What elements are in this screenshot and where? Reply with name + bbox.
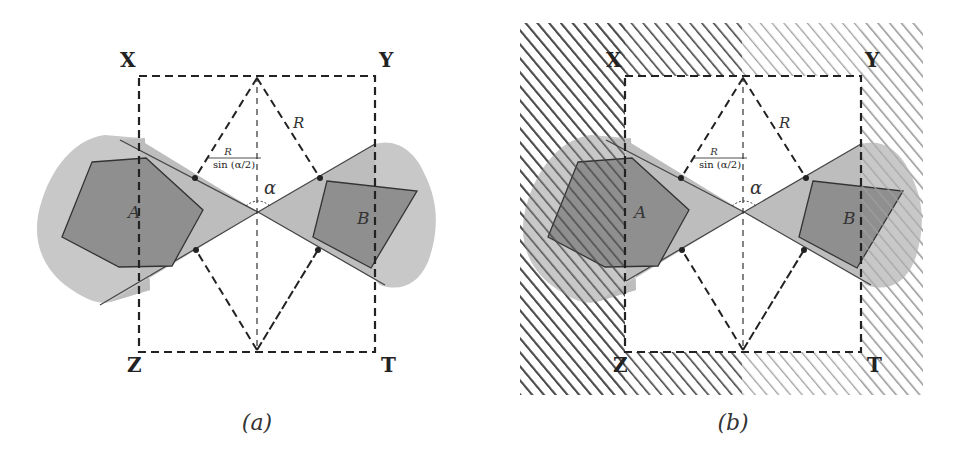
panel-b: X Y Z T A B R R sin (α/2) α (b) bbox=[520, 23, 923, 435]
distance-arrow-lower-left bbox=[196, 250, 257, 350]
corner-label-y: Y bbox=[864, 48, 880, 72]
radius-label: R bbox=[778, 114, 790, 132]
fraction-denominator: sin (α/2) bbox=[699, 159, 741, 170]
object-label-a: A bbox=[126, 202, 140, 222]
corner-label-z: Z bbox=[127, 353, 142, 377]
fraction-denominator: sin (α/2) bbox=[213, 159, 255, 170]
fraction-numerator: R bbox=[709, 146, 718, 157]
caption-a: (a) bbox=[242, 410, 272, 435]
panel-a: X Y Z T A B R R sin (α/2) α (a) bbox=[37, 48, 436, 435]
corner-label-t: T bbox=[381, 353, 396, 377]
corner-label-y: Y bbox=[378, 48, 394, 72]
corner-label-x: X bbox=[606, 48, 622, 72]
hatch-overlay-left bbox=[520, 23, 625, 395]
object-label-b: B bbox=[842, 208, 856, 228]
corner-label-x: X bbox=[120, 48, 136, 72]
caption-b: (b) bbox=[717, 410, 748, 435]
angle-label-alpha: α bbox=[264, 177, 276, 198]
figure-canvas: X Y Z T A B R R sin (α/2) α (a) bbox=[0, 0, 953, 466]
corner-label-t: T bbox=[867, 353, 882, 377]
angle-label-alpha: α bbox=[750, 177, 762, 198]
hatch-overlay-right bbox=[861, 23, 923, 395]
radius-label: R bbox=[292, 114, 304, 132]
angle-arc bbox=[246, 201, 270, 206]
corner-label-z: Z bbox=[613, 353, 628, 377]
distance-arrow-lower-right bbox=[257, 250, 318, 350]
distance-arrow-upper-right bbox=[257, 78, 320, 178]
object-label-a: A bbox=[632, 202, 646, 222]
fraction-numerator: R bbox=[223, 146, 232, 157]
object-label-b: B bbox=[356, 208, 370, 228]
